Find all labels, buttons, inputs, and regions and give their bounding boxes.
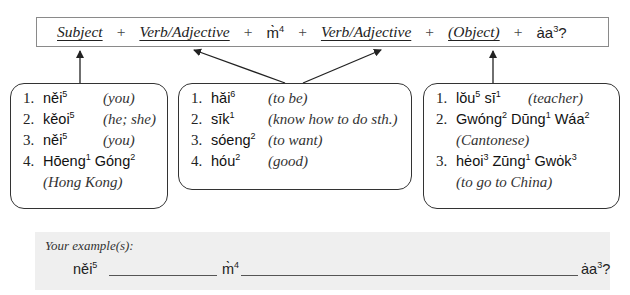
list-item: 1. něi5 (you)	[23, 90, 159, 111]
plus-sign: +	[244, 23, 253, 41]
gloss: (to want)	[268, 132, 323, 149]
plus-sign: +	[514, 23, 523, 41]
verb-object-blank-line[interactable]	[241, 275, 578, 276]
cantonese-word: lŏu5 sī1	[456, 90, 528, 106]
gloss: (know how to do sth.)	[268, 111, 398, 128]
gloss: (you)	[103, 90, 135, 107]
negation-base: m̀	[267, 24, 280, 41]
cantonese-word: kěoi5	[43, 111, 103, 127]
negation-word: m̀4	[222, 261, 239, 277]
item-number: 4.	[23, 153, 43, 170]
object-options-card: 1. lŏu5 sī1 (teacher) 2. Gwóng2 Dūng1 Wá…	[423, 83, 620, 209]
verb-arrow-2	[303, 50, 381, 83]
sentence-pattern-formula: Subject + Verb/Adjective + m̀4 + Verb/Ad…	[36, 17, 609, 47]
item-number: 2.	[436, 111, 456, 128]
item-number: 2.	[191, 111, 211, 128]
cantonese-word: sóeng2	[211, 132, 268, 148]
cantonese-word: hăi6	[211, 90, 268, 106]
particle-base: ȧa	[536, 24, 553, 41]
gloss: (teacher)	[528, 90, 583, 107]
list-item-continuation: (to go to China)	[436, 174, 611, 195]
subject-slot: Subject	[57, 23, 103, 41]
list-item-continuation: (Cantonese)	[436, 132, 611, 153]
list-item: 4. hóu2 (good)	[191, 153, 403, 174]
list-item: 2. sīk1 (know how to do sth.)	[191, 111, 403, 132]
item-number: 1.	[436, 90, 456, 107]
plus-sign: +	[425, 23, 434, 41]
cantonese-word: hóu2	[211, 153, 268, 169]
cantonese-word: sīk1	[211, 111, 268, 127]
cantonese-word: něi5	[43, 90, 103, 106]
item-number: 1.	[23, 90, 43, 107]
subject-word: něi5	[73, 261, 97, 277]
negation-tone: 4	[279, 24, 284, 34]
list-item: 3. sóeng2 (to want)	[191, 132, 403, 153]
gloss: (Cantonese)	[456, 132, 529, 149]
item-number: 3.	[23, 132, 43, 149]
list-item: 1. lŏu5 sī1 (teacher)	[436, 90, 611, 111]
gloss: (Hong Kong)	[43, 174, 123, 191]
item-number: 2.	[23, 111, 43, 128]
subject-options-card: 1. něi5 (you) 2. kěoi5 (he; she) 3. něi5…	[10, 83, 168, 209]
item-number: 4.	[191, 153, 211, 170]
cantonese-word: Hōeng1 Góng2	[43, 153, 135, 169]
verb-blank-line[interactable]	[109, 275, 217, 276]
verb-adjective-options-card: 1. hăi6 (to be) 2. sīk1 (know how to do …	[178, 83, 412, 190]
list-item: 4. Hōeng1 Góng2	[23, 153, 159, 174]
list-item: 3. něi5 (you)	[23, 132, 159, 153]
cantonese-word: Gwóng2 Dūng1 Wáa2	[456, 111, 590, 127]
gloss: (to go to China)	[456, 174, 552, 191]
question-mark: ?	[558, 24, 566, 41]
item-number: 3.	[436, 153, 456, 170]
item-number: 3.	[191, 132, 211, 149]
cantonese-word: něi5	[43, 132, 103, 148]
cantonese-word: hėoi3 Zūng1 Gwȯk3	[456, 153, 577, 169]
gloss: (to be)	[268, 90, 308, 107]
list-item: 2. kěoi5 (he; she)	[23, 111, 159, 132]
verb-adjective-slot-1: Verb/Adjective	[139, 23, 229, 41]
question-particle: ȧa3?	[536, 24, 566, 41]
practice-sentence: něi5 m̀4 ȧa3?	[35, 259, 610, 281]
practice-label: Your example(s):	[45, 238, 134, 254]
gloss: (he; she)	[103, 111, 156, 128]
list-item-continuation: (Hong Kong)	[23, 174, 159, 195]
item-number: 1.	[191, 90, 211, 107]
list-item: 3. hėoi3 Zūng1 Gwȯk3	[436, 153, 611, 174]
question-particle: ȧa3?	[581, 261, 610, 277]
list-item: 1. hăi6 (to be)	[191, 90, 403, 111]
plus-sign: +	[117, 23, 126, 41]
verb-arrow-1	[194, 50, 285, 83]
verb-adjective-slot-2: Verb/Adjective	[321, 23, 411, 41]
gloss: (you)	[103, 132, 135, 149]
practice-area: Your example(s): něi5 m̀4 ȧa3?	[35, 232, 610, 290]
gloss: (good)	[268, 153, 308, 170]
object-slot: (Object)	[448, 23, 500, 41]
plus-sign: +	[298, 23, 307, 41]
negation-word: m̀4	[267, 24, 285, 41]
list-item: 2. Gwóng2 Dūng1 Wáa2	[436, 111, 611, 132]
